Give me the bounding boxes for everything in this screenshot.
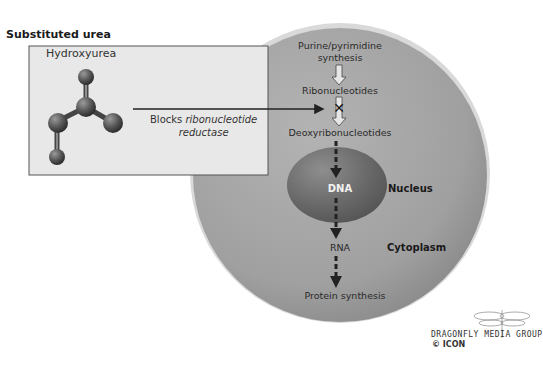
mechanism-prefix: Blocks xyxy=(150,114,185,125)
box-title: Substituted urea xyxy=(6,28,111,41)
cytoplasm-label: Cytoplasm xyxy=(387,242,446,253)
credit-logo-text: DRAGONFLY MEDIA GROUP xyxy=(431,330,543,339)
block-x-icon: ✕ xyxy=(333,100,345,116)
mechanism-enzyme-2: reductase xyxy=(179,127,229,138)
pathway-step-dna: DNA xyxy=(320,183,360,194)
mechanism-enzyme-1: ribonucleotide xyxy=(185,114,257,125)
pathway-step-deoxyribonucleotides: Deoxyribonucleotides xyxy=(270,127,410,138)
pathway-step-ribonucleotides: Ribonucleotides xyxy=(285,85,395,96)
mechanism-label: Blocks ribonucleotide reductase xyxy=(150,113,257,139)
credit-sub-logo: © ICON xyxy=(432,340,465,349)
nucleus-label: Nucleus xyxy=(388,183,433,194)
pathway-step-rna: RNA xyxy=(322,242,358,253)
drug-name: Hydroxyurea xyxy=(46,47,116,60)
pathway-step-purine: Purine/pyrimidine synthesis xyxy=(285,40,395,64)
purine-label: Purine/pyrimidine xyxy=(298,40,382,51)
synthesis-label: synthesis xyxy=(318,52,363,63)
pathway-step-protein-synthesis: Protein synthesis xyxy=(285,290,405,301)
